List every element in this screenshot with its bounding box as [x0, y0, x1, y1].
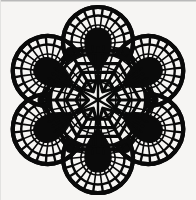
lace-rosette-artwork	[0, 0, 196, 200]
star-hub	[96, 98, 101, 103]
bowtie-knot	[37, 96, 44, 103]
bowtie-knot	[151, 96, 158, 103]
rosette-scene	[13, 7, 183, 193]
image-canvas: rosette-lace-motif Six-lobed lace rosett…	[0, 0, 196, 200]
